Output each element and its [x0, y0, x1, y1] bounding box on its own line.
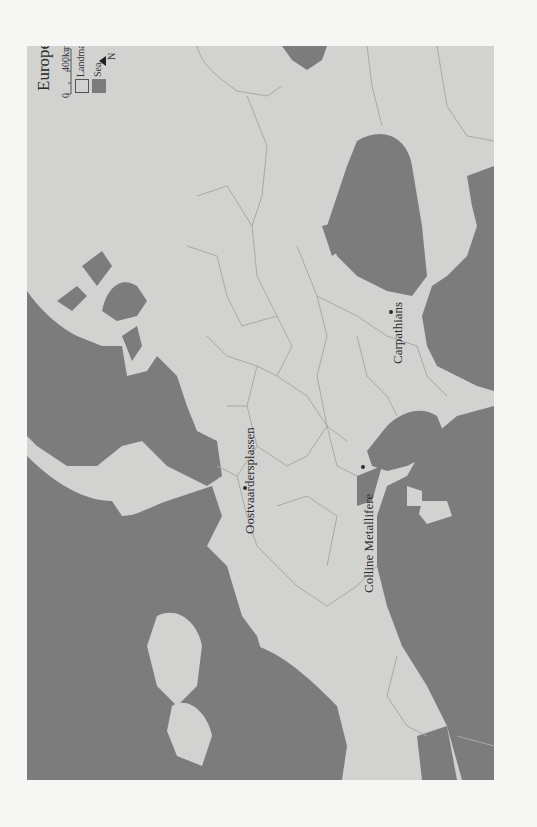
map-frame: Europe Today 0 400km Landmass Sea N Oost… — [27, 46, 494, 780]
place-label-colline-metallifere: Colline Metallifere — [362, 494, 375, 593]
legend-swatch-sea — [92, 79, 106, 93]
scale-end-label: 400km — [61, 46, 71, 72]
north-label: N — [107, 53, 117, 60]
scale-start-label: 0 — [61, 93, 71, 98]
map-title: Europe Today — [35, 46, 52, 91]
legend-label-landmass: Landmass — [76, 46, 86, 77]
map-canvas — [27, 46, 494, 780]
place-marker-colline-metallifere — [361, 465, 365, 469]
sea-areas — [27, 46, 494, 780]
place-label-oostvaardersplassen: Oostvaardersplassen — [243, 427, 256, 534]
north-arrow-icon — [99, 56, 106, 66]
place-label-carpathians: Carpathians — [391, 302, 404, 364]
legend-swatch-landmass — [75, 79, 89, 93]
